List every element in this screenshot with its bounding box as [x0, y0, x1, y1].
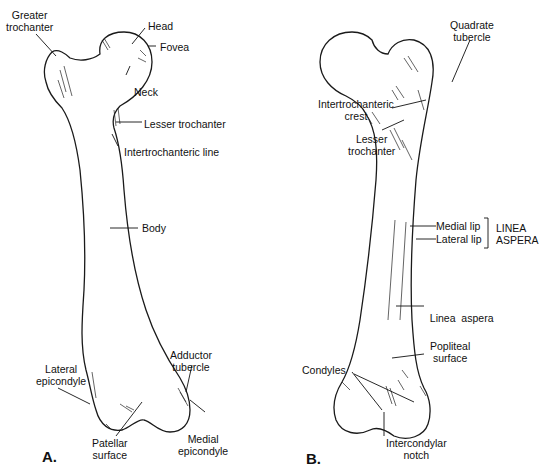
label-quadrate-tubercle: Quadrate tubercle: [450, 19, 494, 43]
label-head: Head: [148, 20, 173, 32]
label-patellar-surface: Patellar surface: [92, 437, 128, 461]
label-line: Intertrochanteric: [318, 98, 394, 110]
label-intertrochanteric-line: Intertrochanteric line: [124, 146, 219, 158]
label-line: epicondyle: [178, 445, 228, 457]
label-intercondylar-notch: Intercondylar notch: [386, 437, 447, 461]
label-line: epicondyle: [36, 375, 86, 387]
label-line: surface: [430, 352, 470, 364]
label-line: Adductor: [170, 349, 212, 361]
label-line: notch: [386, 449, 447, 461]
label-lateral-lip: Lateral lip: [436, 233, 482, 245]
label-line: Lesser trochanter: [144, 118, 226, 130]
label-line: Greater: [6, 9, 53, 21]
label-line: tubercle: [450, 31, 494, 43]
label-line: Linea aspera: [430, 312, 494, 324]
label-line: Quadrate: [450, 19, 494, 31]
label-lesser-trochanter: Lesser trochanter: [144, 118, 226, 130]
label-line: Body: [142, 222, 166, 234]
label-line: trochanter: [348, 145, 395, 157]
label-adductor-tubercle: Adductor tubercle: [170, 349, 212, 373]
panel-label-a: A.: [42, 448, 57, 465]
label-line: Lesser: [348, 133, 395, 145]
label-condyles: Condyles: [302, 364, 346, 376]
label-body: Body: [142, 222, 166, 234]
label-line: Neck: [134, 86, 158, 98]
label-line: Head: [148, 20, 173, 32]
label-medial-lip: Medial lip: [436, 220, 480, 232]
label-line: Condyles: [302, 364, 346, 376]
label-lateral-epicondyle: Lateral epicondyle: [36, 363, 86, 387]
label-fovea: Fovea: [160, 41, 189, 53]
label-medial-epicondyle: Medial epicondyle: [178, 433, 228, 457]
label-line: Patellar: [92, 437, 128, 449]
label-line: Lateral lip: [436, 233, 482, 245]
label-line: Intercondylar: [386, 437, 447, 449]
label-intertrochanteric-crest: Intertrochanteric crest: [318, 98, 394, 122]
label-line: LINEA: [496, 222, 539, 234]
label-popliteal-surface: Popliteal surface: [430, 340, 470, 364]
label-line: trochanter: [6, 21, 53, 33]
label-line: Popliteal: [430, 340, 470, 352]
label-line: Medial lip: [436, 220, 480, 232]
label-line: Medial: [178, 433, 228, 445]
label-line: surface: [92, 449, 128, 461]
label-greater-trochanter: Greater trochanter: [6, 9, 53, 33]
label-line: Intertrochanteric line: [124, 146, 219, 158]
label-neck: Neck: [134, 86, 158, 98]
label-line: ASPERA: [496, 234, 539, 246]
label-linea-aspera-group: LINEA ASPERA: [496, 222, 539, 246]
label-line: Lateral: [36, 363, 86, 375]
label-linea-aspera: Linea aspera: [424, 300, 493, 324]
label-line: tubercle: [170, 361, 212, 373]
label-line: Fovea: [160, 41, 189, 53]
panel-label-b: B.: [306, 450, 321, 467]
label-line: crest: [318, 110, 394, 122]
label-lesser-trochanter-b: Lesser trochanter: [348, 133, 395, 157]
